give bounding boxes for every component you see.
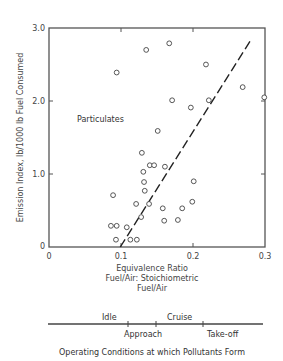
data-point (114, 223, 119, 228)
operating-conditions-caption: Operating Conditions at which Pollutants… (59, 348, 245, 357)
plot-frame (49, 28, 265, 247)
y-tick-label: 2.0 (32, 97, 45, 106)
label-cruise: Cruise (167, 313, 192, 322)
data-point (109, 223, 114, 228)
data-point (139, 215, 144, 220)
x-axis-label: Fuel/Air: Stoichiometric (106, 274, 199, 283)
scatter-plot: 00.10.20.301.02.03.0Emission Index, lb/1… (16, 24, 271, 357)
chart-canvas: 00.10.20.301.02.03.0Emission Index, lb/1… (0, 0, 283, 361)
data-point (111, 193, 116, 198)
y-axis-label: Emission Index, lb/1000 lb Fuel Consumed (16, 53, 25, 223)
data-point (152, 163, 157, 168)
data-point (204, 62, 209, 67)
data-point (139, 150, 144, 155)
data-point (163, 164, 168, 169)
x-axis-label: Equivalence Ratio (116, 264, 188, 273)
data-point (160, 206, 165, 211)
data-point (262, 95, 267, 100)
data-point (114, 70, 119, 75)
data-point (147, 202, 152, 207)
data-point (141, 169, 146, 174)
data-point (180, 206, 185, 211)
data-point (170, 98, 175, 103)
data-point (142, 188, 147, 193)
x-tick-label: 0.2 (187, 252, 200, 261)
data-point (162, 218, 167, 223)
x-axis-label: Fuel/Air (137, 284, 168, 293)
data-point (191, 179, 196, 184)
data-point (206, 98, 211, 103)
y-tick-label: 3.0 (32, 24, 45, 33)
y-tick-label: 1.0 (32, 170, 45, 179)
y-tick-label: 0 (40, 242, 45, 251)
data-point (240, 85, 245, 90)
label-takeoff: Take-off (206, 330, 239, 339)
data-point (142, 180, 147, 185)
data-point (144, 48, 149, 53)
label-idle: Idle (102, 313, 117, 322)
series-annotation: Particulates (77, 115, 124, 124)
x-tick-label: 0 (46, 252, 51, 261)
data-point (190, 199, 195, 204)
data-point (134, 237, 139, 242)
data-point (124, 225, 129, 230)
x-tick-label: 0.3 (259, 252, 272, 261)
data-point (128, 237, 133, 242)
data-point (175, 218, 180, 223)
x-tick-label: 0.1 (115, 252, 128, 261)
data-point (134, 202, 139, 207)
data-point (114, 237, 119, 242)
label-approach: Approach (124, 330, 162, 339)
data-point (155, 129, 160, 134)
data-point (188, 105, 193, 110)
data-point (167, 41, 172, 46)
